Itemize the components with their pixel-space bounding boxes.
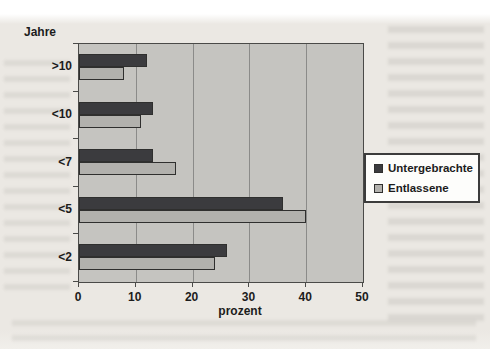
bar-entlassene-gt10: [79, 67, 124, 80]
x-axis-tick-10: [135, 282, 136, 287]
bar-entlassene-lt10: [79, 115, 141, 128]
y-axis-tick-4: [73, 233, 78, 234]
x-tick-label-40: 40: [290, 290, 320, 304]
legend-swatch-untergebrachte: [374, 164, 383, 173]
category-label-lt2: <2: [18, 250, 72, 265]
legend-item-untergebrachte: Untergebrachte: [374, 162, 470, 174]
x-axis-tick-30: [248, 282, 249, 287]
y-axis-tick-1: [73, 91, 78, 92]
y-axis-tick-2: [73, 138, 78, 139]
x-tick-label-20: 20: [177, 290, 207, 304]
x-axis-title: prozent: [180, 304, 300, 318]
gridline-40: [306, 44, 307, 282]
x-axis-tick-0: [78, 282, 79, 287]
bar-entlassene-lt7: [79, 162, 176, 175]
bar-entlassene-lt2: [79, 257, 215, 270]
gridline-30: [249, 44, 250, 282]
x-tick-label-50: 50: [347, 290, 377, 304]
legend: UntergebrachteEntlassene: [364, 153, 480, 203]
y-axis-tick-5: [73, 281, 78, 282]
bar-untergebrachte-gt10: [79, 54, 147, 67]
bleedthrough-text-bottom: [12, 320, 476, 346]
plot-area: [78, 43, 364, 283]
x-axis-tick-50: [362, 282, 363, 287]
category-label-lt10: <10: [18, 107, 72, 122]
bar-untergebrachte-lt5: [79, 197, 283, 210]
x-tick-label-0: 0: [63, 290, 93, 304]
category-label-lt7: <7: [18, 155, 72, 170]
legend-swatch-entlassene: [374, 184, 383, 193]
y-axis-tick-0: [73, 43, 78, 44]
y-axis-tick-3: [73, 186, 78, 187]
legend-label-entlassene: Entlassene: [388, 182, 449, 194]
scanned-book-page: Jahre >10<10<7<5<2 01020304050 prozent U…: [0, 0, 490, 349]
x-axis-tick-20: [192, 282, 193, 287]
y-axis-title: Jahre: [24, 25, 56, 39]
bar-untergebrachte-lt7: [79, 149, 153, 162]
category-label-lt5: <5: [18, 202, 72, 217]
x-tick-label-10: 10: [120, 290, 150, 304]
category-label-gt10: >10: [18, 59, 72, 74]
x-tick-label-30: 30: [233, 290, 263, 304]
x-axis-tick-40: [305, 282, 306, 287]
legend-label-untergebrachte: Untergebrachte: [388, 162, 473, 174]
bar-entlassene-lt5: [79, 210, 306, 223]
bar-untergebrachte-lt10: [79, 102, 153, 115]
bar-untergebrachte-lt2: [79, 244, 227, 257]
legend-item-entlassene: Entlassene: [374, 182, 470, 194]
